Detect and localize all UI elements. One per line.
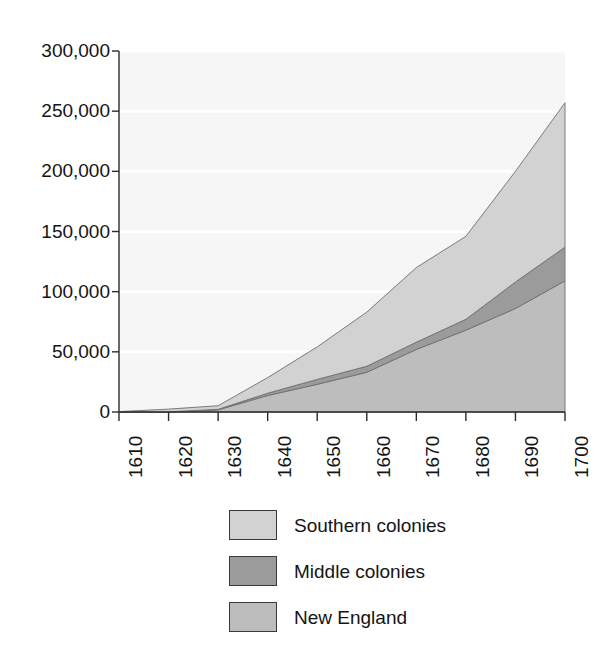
chart-legend: Southern colonies Middle colonies New En… [229, 505, 559, 643]
legend-swatch-new-england [229, 602, 277, 632]
legend-label-new-england: New England [294, 608, 407, 627]
x-axis-tick-label: 1690 [522, 436, 541, 478]
x-axis-tick-label: 1670 [423, 436, 442, 478]
x-axis-tick-label: 1630 [225, 436, 244, 478]
y-axis-tick-label: 300,000 [41, 41, 110, 60]
legend-item-new-england[interactable]: New England [229, 597, 559, 637]
y-axis-tick-label: 150,000 [41, 222, 110, 241]
y-axis-tick-label: 100,000 [41, 282, 110, 301]
legend-item-middle-colonies[interactable]: Middle colonies [229, 551, 559, 591]
legend-label-southern-colonies: Southern colonies [294, 516, 446, 535]
legend-label-middle-colonies: Middle colonies [294, 562, 425, 581]
y-axis-tick-label: 50,000 [52, 342, 110, 361]
legend-swatch-southern-colonies [229, 510, 277, 540]
legend-item-southern-colonies[interactable]: Southern colonies [229, 505, 559, 545]
x-axis-tick-label: 1620 [176, 436, 195, 478]
x-axis-tick-label: 1610 [126, 436, 145, 478]
y-axis-tick-label: 0 [99, 402, 110, 421]
x-axis-tick-label: 1700 [572, 436, 591, 478]
legend-swatch-middle-colonies [229, 556, 277, 586]
x-axis-tick-label: 1640 [275, 436, 294, 478]
y-axis-tick-label: 250,000 [41, 101, 110, 120]
y-axis-tick-label: 200,000 [41, 161, 110, 180]
x-axis-tick-label: 1660 [374, 436, 393, 478]
x-axis-tick-label: 1680 [473, 436, 492, 478]
chart-container: 300,000250,000200,000150,000100,00050,00… [0, 0, 597, 661]
x-axis-tick-label: 1650 [324, 436, 343, 478]
